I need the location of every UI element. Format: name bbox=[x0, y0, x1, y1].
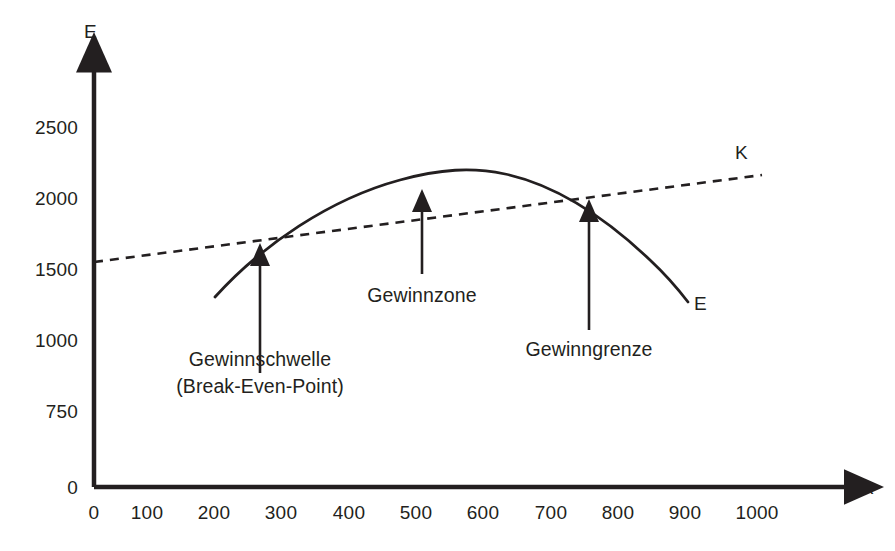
profit-limit-annotation: Gewinngrenze bbox=[504, 340, 674, 360]
x-tick-label: 0 bbox=[64, 503, 124, 522]
chart-canvas bbox=[0, 0, 895, 551]
x-tick-label: 100 bbox=[117, 503, 177, 522]
y-tick-label: 2000 bbox=[0, 189, 78, 208]
break-even-chart: E x 2500 2000 1500 1000 750 0 0 100 200 … bbox=[0, 0, 895, 551]
profit-zone-annotation: Gewinnzone bbox=[337, 286, 507, 306]
x-tick-label: 300 bbox=[251, 503, 311, 522]
x-tick-label: 600 bbox=[453, 503, 513, 522]
break-even-label-line2: (Break-Even-Point) bbox=[155, 377, 365, 397]
revenue-curve-label-e: E bbox=[694, 294, 707, 313]
cost-line-k bbox=[94, 175, 762, 262]
x-tick-label: 1000 bbox=[722, 503, 792, 522]
x-tick-label: 700 bbox=[521, 503, 581, 522]
y-tick-label: 0 bbox=[0, 478, 78, 497]
y-axis-title: E bbox=[84, 22, 97, 41]
x-axis-title: x bbox=[864, 478, 874, 497]
break-even-label-line1: Gewinnschwelle bbox=[189, 348, 331, 370]
break-even-annotation: Gewinnschwelle (Break-Even-Point) bbox=[155, 350, 365, 396]
x-tick-label: 800 bbox=[588, 503, 648, 522]
y-tick-label: 1500 bbox=[0, 260, 78, 279]
y-tick-label: 2500 bbox=[0, 118, 78, 137]
y-tick-label: 750 bbox=[0, 402, 78, 421]
x-tick-label: 400 bbox=[319, 503, 379, 522]
profit-zone-arrow bbox=[412, 189, 432, 274]
x-tick-label: 500 bbox=[386, 503, 446, 522]
profit-limit-arrow bbox=[579, 199, 599, 330]
profit-limit-label: Gewinngrenze bbox=[526, 338, 653, 360]
profit-zone-label: Gewinnzone bbox=[367, 284, 476, 306]
x-tick-label: 200 bbox=[184, 503, 244, 522]
x-tick-label: 900 bbox=[655, 503, 715, 522]
revenue-curve-e bbox=[215, 170, 688, 302]
cost-line-label-k: K bbox=[735, 143, 748, 162]
y-tick-label: 1000 bbox=[0, 331, 78, 350]
